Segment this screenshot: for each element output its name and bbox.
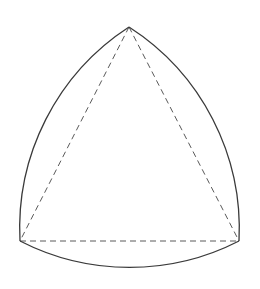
reuleaux-outline xyxy=(20,27,240,267)
dashed-triangle xyxy=(20,27,239,241)
bottom-arc xyxy=(20,241,239,267)
dashed-edge-left xyxy=(20,27,129,241)
dashed-edge-right xyxy=(129,27,239,241)
reuleaux-triangle-diagram xyxy=(0,0,260,289)
